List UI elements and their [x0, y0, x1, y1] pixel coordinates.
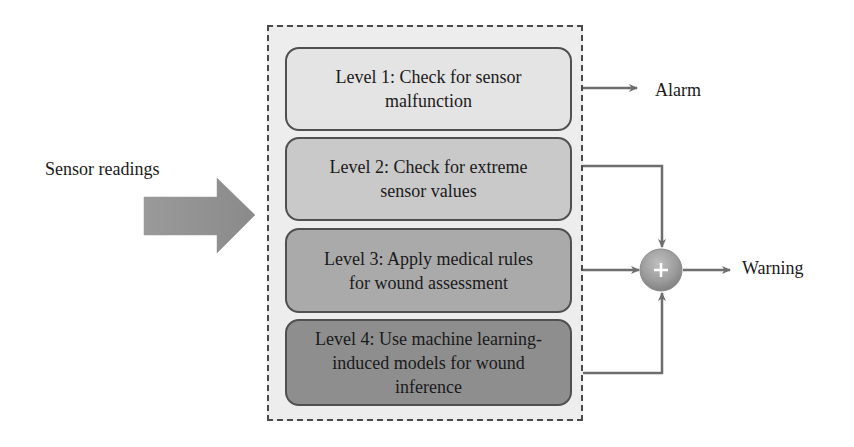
- level-2-line-2: sensor values: [330, 179, 528, 203]
- diagram-canvas: Sensor readings: [0, 0, 854, 447]
- alarm-label: Alarm: [655, 80, 701, 101]
- level-2-connector: [572, 166, 662, 247]
- level-1-line-1: Level 1: Check for sensor: [336, 65, 522, 89]
- level-3-line-2: for wound assessment: [324, 271, 533, 295]
- level-1-box: Level 1: Check for sensor malfunction: [285, 47, 572, 131]
- level-3-line-1: Level 3: Apply medical rules: [324, 247, 533, 271]
- level-3-box: Level 3: Apply medical rules for wound a…: [285, 228, 572, 313]
- level-1-line-2: malfunction: [336, 89, 522, 113]
- level-4-line-1: Level 4: Use machine learning-: [315, 327, 542, 351]
- level-4-connector: [572, 293, 662, 373]
- level-4-line-2: induced models for wound: [315, 351, 542, 375]
- level-4-box: Level 4: Use machine learning- induced m…: [285, 319, 572, 406]
- warning-label: Warning: [742, 258, 804, 279]
- level-2-line-1: Level 2: Check for extreme: [330, 155, 528, 179]
- level-4-line-3: inference: [315, 375, 542, 399]
- input-arrow-icon: [144, 178, 255, 253]
- level-2-box: Level 2: Check for extreme sensor values: [285, 137, 572, 221]
